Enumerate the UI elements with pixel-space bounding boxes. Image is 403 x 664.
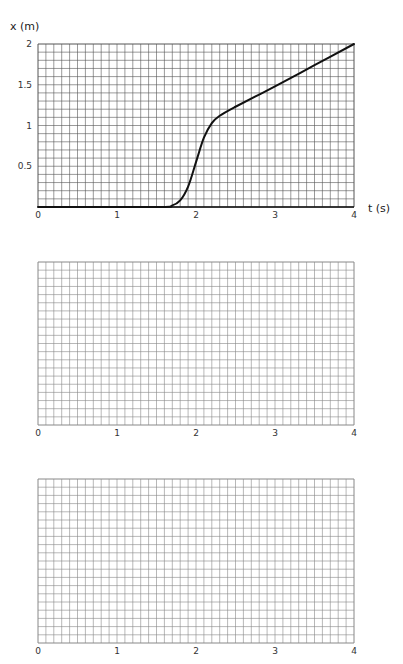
x-tick-label: 3	[272, 646, 278, 656]
x-tick-label: 3	[272, 210, 278, 220]
blank-grid-chart-3: 01234	[0, 469, 403, 664]
x-axis-title: t (s)	[368, 202, 390, 215]
x-tick-label: 4	[351, 646, 357, 656]
x-tick-label: 0	[35, 428, 41, 438]
x-tick-label: 4	[351, 428, 357, 438]
blank-grid-plot-2: 01234	[0, 250, 403, 445]
x-tick-label: 1	[114, 428, 120, 438]
x-tick-label: 2	[193, 210, 199, 220]
grid	[38, 479, 354, 643]
y-axis-title: x (m)	[10, 20, 39, 33]
position-time-plot: 012340.511.52x (m)t (s)	[0, 0, 403, 230]
x-tick-label: 3	[272, 428, 278, 438]
x-tick-label: 2	[193, 428, 199, 438]
y-tick-label: 2	[26, 39, 32, 49]
x-tick-label: 4	[351, 210, 357, 220]
y-tick-label: 1	[26, 121, 32, 131]
x-tick-label: 2	[193, 646, 199, 656]
blank-grid-chart-2: 01234	[0, 250, 403, 445]
position-time-chart: 012340.511.52x (m)t (s)	[0, 0, 403, 230]
x-tick-label: 0	[35, 646, 41, 656]
grid	[38, 262, 354, 425]
x-tick-label: 0	[35, 210, 41, 220]
y-tick-label: 0.5	[18, 161, 32, 171]
x-tick-label: 1	[114, 210, 120, 220]
y-tick-label: 1.5	[18, 80, 32, 90]
x-tick-label: 1	[114, 646, 120, 656]
blank-grid-plot-3: 01234	[0, 469, 403, 664]
